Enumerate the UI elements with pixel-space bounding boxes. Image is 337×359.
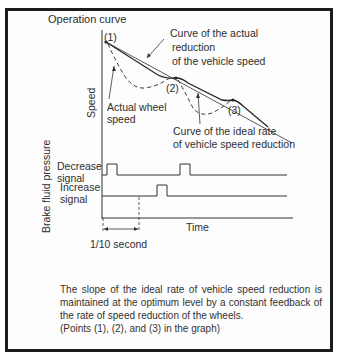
time-interval-label: 1/10 second (90, 238, 147, 251)
y-axis-speed-label: Speed (85, 88, 97, 118)
actual-reduction-label-line2: reduction (172, 41, 215, 54)
diagram-title: Operation curve (48, 13, 126, 26)
increase-signal-label-line2: signal (60, 193, 87, 206)
time-interval-arrowhead-right (134, 227, 138, 231)
ideal-rate-label-line1: Curve of the ideal rate (173, 125, 276, 138)
point-2-label: (2) (166, 82, 179, 95)
actual-wheel-speed-label-line2: speed (107, 113, 136, 126)
caption-body: The slope of the ideal rate of vehicle s… (60, 283, 322, 322)
x-axis-time-label: Time (186, 221, 209, 234)
actual-reduction-label-line3: of the vehicle speed (172, 55, 265, 68)
increase-signal-line (102, 185, 287, 196)
point-1-label: (1) (104, 31, 117, 44)
point-2-marker (174, 76, 177, 79)
caption: The slope of the ideal rate of vehicle s… (60, 283, 322, 335)
y-axis-brake-pressure-label: Brake fluid pressure (40, 140, 52, 233)
point-3-label: (3) (228, 104, 241, 117)
point-3-marker (231, 98, 234, 101)
time-interval-arrowhead-left (104, 227, 108, 231)
actual-reduction-label-line1: Curve of the actual (170, 27, 258, 40)
caption-note: (Points (1), (2), and (3) in the graph) (60, 322, 322, 335)
ideal-rate-label-line2: of vehicle speed reduction (173, 138, 295, 151)
ideal-rate-arrowhead (196, 93, 200, 98)
wheel-speed-arrowhead (112, 66, 116, 71)
decrease-signal-line (102, 164, 287, 175)
